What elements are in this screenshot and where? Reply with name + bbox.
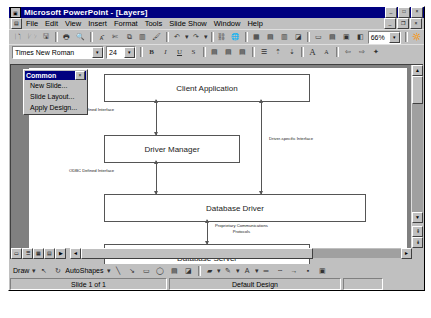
maximize-button[interactable]: □: [398, 7, 410, 18]
menu-item-window[interactable]: Window: [214, 19, 241, 28]
open-icon[interactable]: 🗁: [26, 31, 39, 43]
chevron-down-icon[interactable]: ▾: [236, 265, 240, 277]
three-d-icon[interactable]: ▣: [316, 265, 329, 277]
line-icon[interactable]: ╲: [112, 265, 125, 277]
menu-item-help[interactable]: Help: [247, 19, 262, 28]
oval-icon[interactable]: ◯: [154, 265, 167, 277]
animation-effects-icon[interactable]: ✦: [369, 46, 382, 58]
chevron-down-icon[interactable]: ▾: [217, 265, 221, 277]
diagram-box-database-driver[interactable]: Database Driver: [104, 194, 366, 222]
diagram-box-client-application[interactable]: Client Application: [104, 74, 310, 102]
slide-layout-icon[interactable]: ▤: [326, 31, 339, 43]
new-icon[interactable]: 🗋: [12, 31, 25, 43]
insert-hyperlink-icon[interactable]: ⛓: [216, 31, 229, 43]
font-name-combo[interactable]: Times New Roman ▾: [12, 46, 104, 59]
palette-item-slide-layout[interactable]: Slide Layout...: [25, 91, 86, 102]
menu-item-file[interactable]: File: [26, 19, 38, 28]
outline-view-icon[interactable]: ☰: [22, 248, 33, 259]
chevron-down-icon[interactable]: ▾: [124, 47, 135, 58]
increase-font-size-icon[interactable]: A: [306, 46, 319, 58]
chevron-down-icon[interactable]: ▾: [107, 265, 111, 277]
font-size-combo[interactable]: 24 ▾: [106, 46, 136, 59]
chevron-down-icon[interactable]: ▾: [92, 47, 103, 58]
insert-clipart-icon[interactable]: ◪: [292, 31, 305, 43]
chevron-down-icon[interactable]: ▾: [389, 32, 400, 43]
mdi-restore-button[interactable]: ❐: [397, 18, 409, 29]
insert-excel-table-icon[interactable]: ▤: [264, 31, 277, 43]
cut-icon[interactable]: ✄: [109, 31, 122, 43]
menu-item-format[interactable]: Format: [114, 19, 138, 28]
menu-item-view[interactable]: View: [65, 19, 81, 28]
horizontal-scrollbar-row[interactable]: ▭ ☰ ▦ ▤ ▶ ◄ ►: [11, 248, 412, 259]
slide-view-icon[interactable]: ▭: [11, 248, 22, 259]
slide-show-view-icon[interactable]: ▶: [55, 248, 66, 259]
mdi-close-button[interactable]: ×: [410, 18, 422, 29]
menu-item-edit[interactable]: Edit: [45, 19, 58, 28]
underline-icon[interactable]: U: [173, 46, 186, 58]
vertical-scrollbar[interactable]: ▲ ▼ ⇞ ⇟: [411, 65, 423, 259]
print-preview-icon[interactable]: 🔍: [74, 31, 87, 43]
demote-icon[interactable]: ⇨: [355, 46, 368, 58]
draw-menu-button[interactable]: Draw: [13, 267, 29, 274]
palette-item-apply-design[interactable]: Apply Design...: [25, 102, 86, 113]
promote-icon[interactable]: ⇦: [341, 46, 354, 58]
apply-design-icon[interactable]: ▣: [340, 31, 353, 43]
italic-icon[interactable]: I: [159, 46, 172, 58]
scroll-left-button[interactable]: ◄: [70, 248, 81, 259]
close-icon[interactable]: ×: [75, 71, 85, 80]
paste-icon[interactable]: ▥: [136, 31, 149, 43]
insert-chart-icon[interactable]: ▥: [278, 31, 291, 43]
scroll-up-button[interactable]: ▲: [412, 65, 423, 76]
insert-wordart-icon[interactable]: ◪: [182, 265, 195, 277]
text-shadow-icon[interactable]: S: [187, 46, 200, 58]
horizontal-scroll-thumb[interactable]: [81, 248, 313, 259]
menu-item-insert[interactable]: Insert: [88, 19, 107, 28]
undo-dropdown-icon[interactable]: ▾: [185, 31, 189, 43]
previous-slide-button[interactable]: ⇞: [412, 226, 423, 237]
align-center-icon[interactable]: ▤: [222, 46, 235, 58]
slide-sorter-view-icon[interactable]: ▦: [33, 248, 44, 259]
text-box-icon[interactable]: ▤: [168, 265, 181, 277]
diagram-box-driver-manager[interactable]: Driver Manager: [104, 135, 240, 163]
save-icon[interactable]: 🖫: [40, 31, 53, 43]
common-toolbar-palette[interactable]: Common × New Slide... Slide Layout... Ap…: [23, 69, 88, 115]
bullets-icon[interactable]: ☰: [257, 46, 270, 58]
palette-item-new-slide[interactable]: New Slide...: [25, 80, 86, 91]
menu-item-tools[interactable]: Tools: [145, 19, 163, 28]
scroll-right-button[interactable]: ►: [401, 248, 412, 259]
office-assistant-icon[interactable]: 🔆: [410, 31, 423, 43]
align-left-icon[interactable]: ▤: [208, 46, 221, 58]
close-button[interactable]: ×: [411, 7, 423, 18]
dash-style-icon[interactable]: ┄: [274, 265, 287, 277]
select-objects-icon[interactable]: ↖: [37, 265, 50, 277]
insert-table-icon[interactable]: ▦: [250, 31, 263, 43]
bold-icon[interactable]: B: [145, 46, 158, 58]
notes-page-view-icon[interactable]: ▤: [44, 248, 55, 259]
format-painter-icon[interactable]: 🖌: [150, 31, 163, 43]
menu-item-slide-show[interactable]: Slide Show: [169, 19, 207, 28]
decrease-font-size-icon[interactable]: A: [320, 46, 333, 58]
print-icon[interactable]: 🖶: [60, 31, 73, 43]
scroll-down-button[interactable]: ▼: [412, 212, 423, 223]
copy-icon[interactable]: ⧉: [123, 31, 136, 43]
powerpoint-icon[interactable]: ▣: [10, 7, 21, 18]
horizontal-scroll-track[interactable]: [313, 249, 401, 258]
fill-color-icon[interactable]: ▰: [203, 265, 216, 277]
minimize-button[interactable]: _: [385, 7, 397, 18]
chevron-down-icon[interactable]: ▾: [32, 265, 36, 277]
shadow-icon[interactable]: ▪: [302, 265, 315, 277]
font-color-icon[interactable]: A: [241, 265, 254, 277]
zoom-combo[interactable]: 66% ▾: [368, 31, 402, 44]
undo-icon[interactable]: ↶: [171, 31, 184, 43]
web-toolbar-icon[interactable]: 🌐: [229, 31, 242, 43]
arrow-style-icon[interactable]: →: [288, 265, 301, 277]
rectangle-icon[interactable]: ▭: [140, 265, 153, 277]
mdi-minimize-button[interactable]: _: [384, 18, 396, 29]
document-icon[interactable]: ▤: [11, 18, 22, 29]
autoshapes-menu-button[interactable]: AutoShapes: [65, 267, 103, 274]
increase-paragraph-spacing-icon[interactable]: ⇡: [271, 46, 284, 58]
redo-icon[interactable]: ↷: [190, 31, 203, 43]
decrease-paragraph-spacing-icon[interactable]: ⇣: [285, 46, 298, 58]
new-slide-icon[interactable]: ▭: [312, 31, 325, 43]
black-and-white-view-icon[interactable]: ◧: [354, 31, 367, 43]
